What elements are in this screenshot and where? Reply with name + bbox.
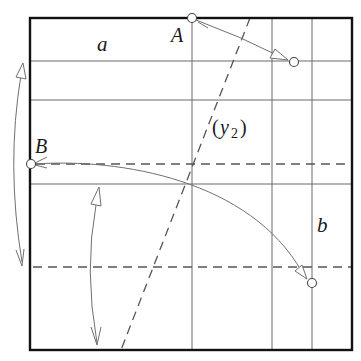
label-point-b: B <box>35 135 47 157</box>
middle-swing-arrow-head-up-icon <box>91 187 101 206</box>
left-swing-arrow-head-up-icon <box>16 63 26 79</box>
point-b-target <box>308 279 317 288</box>
fold-a-arrow-head-icon <box>270 49 288 60</box>
point-b <box>27 160 36 169</box>
label-a-region: a <box>97 32 108 56</box>
left-swing-arrow-shaft <box>14 75 22 262</box>
label-y2-variable: y <box>218 116 229 139</box>
fold-a-arrow-shaft <box>196 20 283 58</box>
fold-b-arrow-tail-tick-2 <box>35 165 47 168</box>
label-y2-close-paren: ) <box>240 116 247 139</box>
label-y2-subscript: 2 <box>231 126 238 141</box>
point-a <box>188 14 197 23</box>
label-b-region: b <box>317 213 328 237</box>
grid-solid-lines <box>30 18 352 350</box>
folding-diagram: a b A B ( y 2 ) <box>0 0 361 361</box>
point-a-target <box>290 58 299 67</box>
middle-swing-arrow <box>90 187 101 345</box>
fold-b-arrow-shaft <box>35 163 302 272</box>
label-point-a: A <box>169 24 184 46</box>
fold-b-arrow-tail-tick-1 <box>35 157 47 163</box>
fold-b-arrow <box>35 157 307 279</box>
label-y2-open-paren: ( <box>212 116 219 139</box>
left-swing-arrow <box>14 63 26 266</box>
label-y2: ( y 2 ) <box>212 116 247 141</box>
middle-swing-arrow-shaft <box>90 205 97 343</box>
